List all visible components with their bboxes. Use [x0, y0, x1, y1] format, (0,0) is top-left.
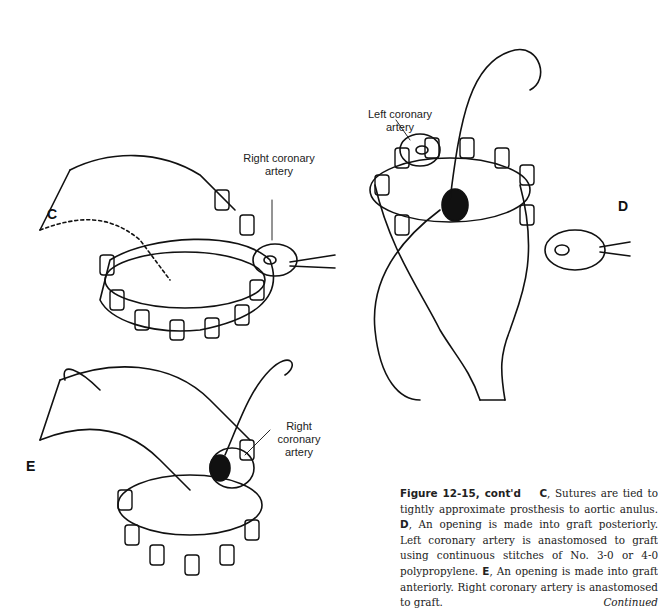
label-line: artery	[265, 165, 293, 177]
caption-letter-c: C	[539, 487, 547, 499]
label-line: coronary	[278, 433, 321, 445]
panel-d-drawing	[370, 50, 630, 400]
panel-letter-d: D	[618, 198, 628, 214]
label-right-coronary-artery-c: Right coronary artery	[234, 152, 324, 178]
label-line: Left coronary	[368, 108, 432, 120]
figure-label: Figure 12-15, cont'd	[400, 487, 521, 499]
label-line: Right	[286, 420, 312, 432]
panel-letter-c: C	[47, 206, 57, 222]
panel-c-drawing	[40, 156, 335, 340]
figure-caption: Figure 12-15, cont'd C, Sutures are tied…	[400, 486, 658, 611]
label-line: Right coronary	[243, 152, 315, 164]
label-line: artery	[386, 121, 414, 133]
label-right-coronary-artery-e: Right coronary artery	[264, 420, 334, 459]
panel-letter-e: E	[26, 458, 35, 474]
label-line: artery	[285, 446, 313, 458]
caption-letter-d: D	[400, 518, 409, 530]
label-left-coronary-artery-d: Left coronary artery	[360, 108, 440, 134]
panel-e-drawing	[40, 360, 292, 575]
